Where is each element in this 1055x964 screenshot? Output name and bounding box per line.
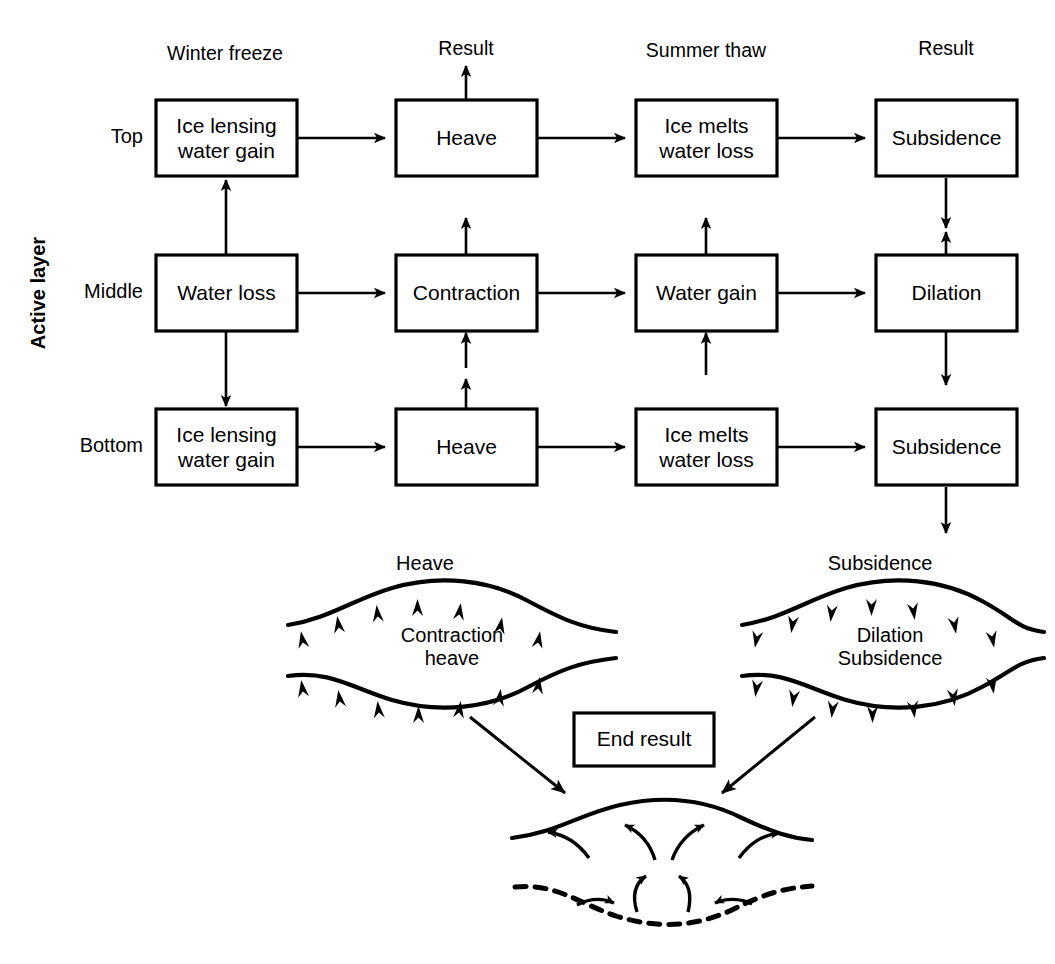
flow-arc-lower-left-up [634,876,646,912]
box-top-result1[interactable]: Heave [396,100,537,176]
lens-right-lower-down-arrows [750,676,999,723]
flow-arc-lower-right-in [715,899,752,904]
figure-canvas: Winter freeze Result Summer thaw Result … [0,0,1055,964]
box-bot-result2[interactable]: Subsidence [876,409,1017,485]
end-result-dashed-surface [515,886,812,924]
box-top-winter-line2: water gain [177,139,275,162]
lens-left-lower-up-arrows [296,676,545,723]
box-bot-result2-line1: Subsidence [892,435,1002,458]
box-bot-summer-line1: Ice melts [664,423,748,446]
flow-arc-upper-right-up [672,825,704,860]
row-label-top: Top [111,125,143,147]
box-bot-summer-line2: water loss [658,448,754,471]
box-top-winter[interactable]: Ice lensing water gain [156,100,297,176]
box-end-result-label: End result [597,727,692,750]
box-bot-winter-line1: Ice lensing [176,423,276,446]
box-mid-summer-line1: Water gain [656,281,757,304]
lens-right-inner-line2: Subsidence [838,647,943,669]
arrow-left-lens-to-end-result [470,717,565,793]
box-mid-result1[interactable]: Contraction [396,255,537,331]
lens-left-heading: Heave [396,552,454,574]
box-bot-winter[interactable]: Ice lensing water gain [156,409,297,485]
flow-arc-upper-left-up [625,825,655,860]
box-top-result2-line1: Subsidence [892,126,1002,149]
lens-right-inner-line1: Dilation [857,624,924,646]
box-mid-result2-line1: Dilation [911,281,981,304]
box-bot-result1[interactable]: Heave [396,409,537,485]
lens-right-heading: Subsidence [828,552,933,574]
box-top-summer-line2: water loss [658,139,754,162]
row-label-bottom: Bottom [80,434,143,456]
box-mid-winter[interactable]: Water loss [156,255,297,331]
box-top-result1-line1: Heave [436,126,497,149]
lens-left-heave: Heave Contraction heave [288,552,616,723]
lens-left-inner-line2: heave [425,647,480,669]
end-result-figure [512,800,812,924]
flow-arc-upper-right-out [739,833,780,858]
flow-arc-upper-left-out [548,832,589,858]
box-mid-result1-line1: Contraction [413,281,520,304]
column-header-summer-thaw: Summer thaw [646,39,767,61]
box-mid-summer[interactable]: Water gain [636,255,777,331]
box-top-winter-line1: Ice lensing [176,114,276,137]
lens-left-inner-line1: Contraction [401,624,503,646]
flow-arc-lower-right-up [679,876,690,912]
axis-label-active-layer: Active layer [27,237,49,350]
box-top-summer[interactable]: Ice melts water loss [636,100,777,176]
box-bot-winter-line2: water gain [177,448,275,471]
arrow-right-lens-to-end-result [722,717,815,793]
permafrost-flow-diagram: Winter freeze Result Summer thaw Result … [0,0,1055,964]
box-bot-summer[interactable]: Ice melts water loss [636,409,777,485]
box-mid-winter-line1: Water loss [177,281,275,304]
svg-text:Active layer: Active layer [27,237,49,350]
box-top-result2[interactable]: Subsidence [876,100,1017,176]
lens-right-subsidence: Subsidence Dilation Subsidence [742,552,1044,723]
row-label-middle: Middle [84,280,143,302]
column-header-result-1: Result [438,37,494,59]
box-end-result[interactable]: End result [574,713,714,766]
column-header-winter-freeze: Winter freeze [167,42,283,64]
column-header-result-2: Result [918,37,974,59]
box-mid-result2[interactable]: Dilation [876,255,1017,331]
box-top-summer-line1: Ice melts [664,114,748,137]
box-bot-result1-line1: Heave [436,435,497,458]
